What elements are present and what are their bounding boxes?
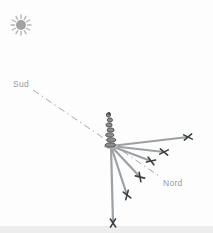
sun-ray	[24, 16, 26, 19]
shadow-line	[111, 146, 113, 223]
south-label: Sud	[13, 79, 29, 89]
sun-ray	[24, 31, 26, 34]
sun-ray	[16, 31, 18, 34]
meridian-dashdot	[33, 90, 159, 176]
gnomon-screw	[104, 112, 118, 149]
sun-ray	[27, 28, 30, 30]
shadow-diagram: Sud Nord	[0, 0, 213, 233]
sun-ray	[12, 20, 15, 22]
shadow-line	[111, 137, 188, 146]
sun-ray	[27, 20, 30, 22]
sun-ray	[16, 16, 18, 19]
screw-coil	[107, 128, 114, 132]
sun-icon	[11, 15, 31, 35]
ground-strip	[0, 226, 213, 233]
screw-tip	[107, 112, 110, 115]
ground-strip-rect	[0, 226, 213, 233]
north-label: Nord	[163, 178, 183, 188]
screw-coil	[106, 133, 114, 137]
sun-ray	[12, 28, 15, 30]
sun-core	[16, 20, 26, 30]
meridian-line	[33, 90, 159, 176]
screw-coil	[105, 143, 115, 147]
screw-coil	[107, 138, 116, 142]
shadow-x-mark-icon	[146, 157, 155, 165]
diagram-canvas: Sud Nord	[0, 0, 213, 233]
screw-coil	[107, 118, 112, 122]
x-stroke	[146, 157, 155, 165]
screw-coil	[106, 123, 112, 127]
